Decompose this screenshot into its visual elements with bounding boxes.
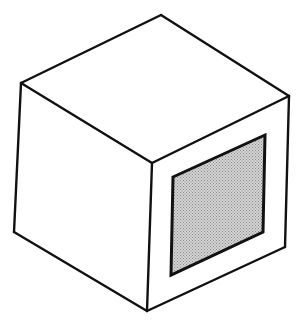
- cube-diagram: [0, 0, 301, 324]
